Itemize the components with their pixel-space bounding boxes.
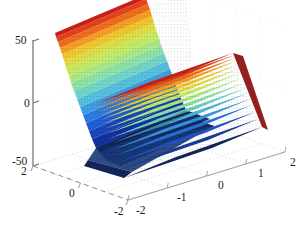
x-tick-1: 1 (258, 168, 264, 180)
y-tick-2: 2 (21, 166, 27, 178)
x-tick-neg1: -1 (177, 192, 187, 204)
z-axis-line (33, 39, 39, 166)
z-tick-50: 50 (15, 35, 27, 47)
z-tick-0: 0 (24, 98, 30, 110)
y-tick-neg2: -2 (114, 206, 124, 218)
x-tick-2: 2 (290, 157, 296, 169)
surface-plot-figure: 50 0 -50 2 0 -2 -2 -1 0 1 2 (0, 0, 303, 249)
x-tick-neg2: -2 (136, 205, 146, 217)
x-tick-0: 0 (218, 180, 224, 192)
y-tick-0: 0 (69, 188, 75, 200)
surface-mesh-lines (55, 0, 262, 178)
plot-canvas (0, 0, 303, 249)
